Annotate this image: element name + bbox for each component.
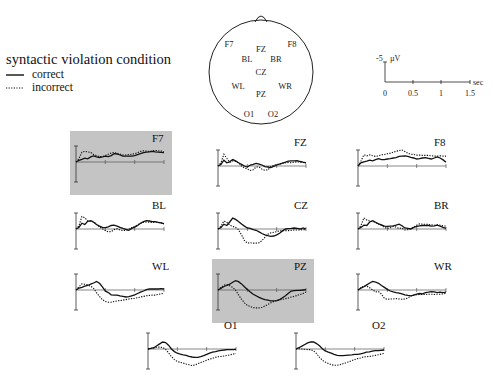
- panel-label: O2: [372, 319, 385, 331]
